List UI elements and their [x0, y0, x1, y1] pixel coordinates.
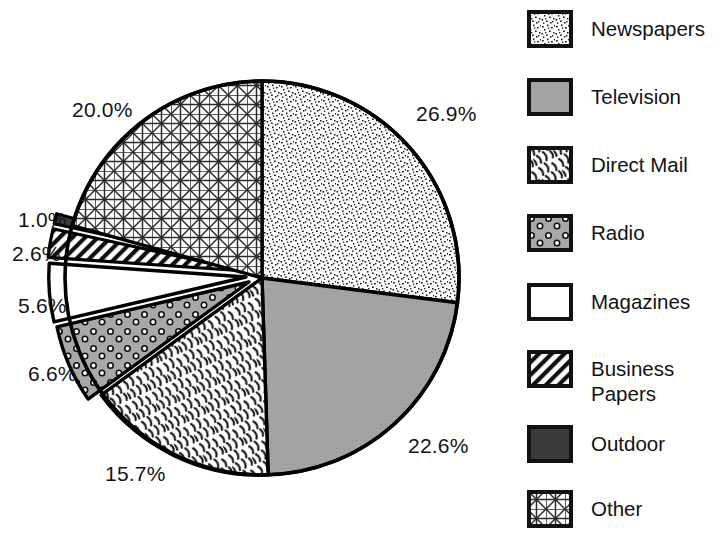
legend-item-other[interactable]: Other	[527, 490, 642, 528]
legend-item-outdoor[interactable]: Outdoor	[527, 425, 665, 463]
legend-swatch-direct-mail-icon	[527, 146, 573, 184]
pct-label-outdoor: 1.0%	[18, 209, 67, 230]
legend-item-direct-mail[interactable]: Direct Mail	[527, 146, 688, 184]
legend-item-magazines[interactable]: Magazines	[527, 283, 690, 321]
legend-label-magazines: Magazines	[591, 283, 690, 314]
pct-label-direct-mail: 15.7%	[105, 463, 166, 484]
pct-label-newspapers: 26.9%	[416, 103, 477, 124]
legend-item-newspapers[interactable]: Newspapers	[527, 10, 705, 48]
legend-label-other: Other	[591, 490, 642, 521]
pct-label-business-papers: 2.6%	[12, 243, 61, 264]
pie-plot-area: 20.0% 26.9% 1.0% 2.6% 5.6% 6.6% 15.7% 22…	[0, 0, 490, 541]
legend-swatch-television-icon	[527, 78, 573, 116]
legend-item-television[interactable]: Television	[527, 78, 681, 116]
pct-label-radio: 6.6%	[28, 363, 77, 384]
legend-label-newspapers: Newspapers	[591, 10, 705, 41]
pct-label-television: 22.6%	[408, 435, 469, 456]
chart-legend: Newspapers Television Direct Mail	[527, 0, 719, 541]
legend-label-outdoor: Outdoor	[591, 425, 665, 456]
legend-swatch-newspapers-icon	[527, 10, 573, 48]
legend-item-radio[interactable]: Radio	[527, 214, 645, 252]
legend-swatch-other-icon	[527, 490, 573, 528]
legend-label-direct-mail: Direct Mail	[591, 146, 688, 177]
legend-label-television: Television	[591, 78, 681, 109]
legend-item-business-papers[interactable]: Business Papers	[527, 350, 674, 406]
pct-label-magazines: 5.6%	[18, 295, 67, 316]
pct-label-other: 20.0%	[72, 99, 133, 120]
legend-swatch-radio-icon	[527, 214, 573, 252]
pie-svg	[0, 0, 490, 541]
legend-label-business-papers: Business Papers	[591, 350, 674, 406]
legend-swatch-magazines-icon	[527, 283, 573, 321]
pie-chart-figure: 20.0% 26.9% 1.0% 2.6% 5.6% 6.6% 15.7% 22…	[0, 0, 719, 541]
legend-label-radio: Radio	[591, 214, 645, 245]
legend-swatch-business-papers-icon	[527, 350, 573, 388]
legend-swatch-outdoor-icon	[527, 425, 573, 463]
